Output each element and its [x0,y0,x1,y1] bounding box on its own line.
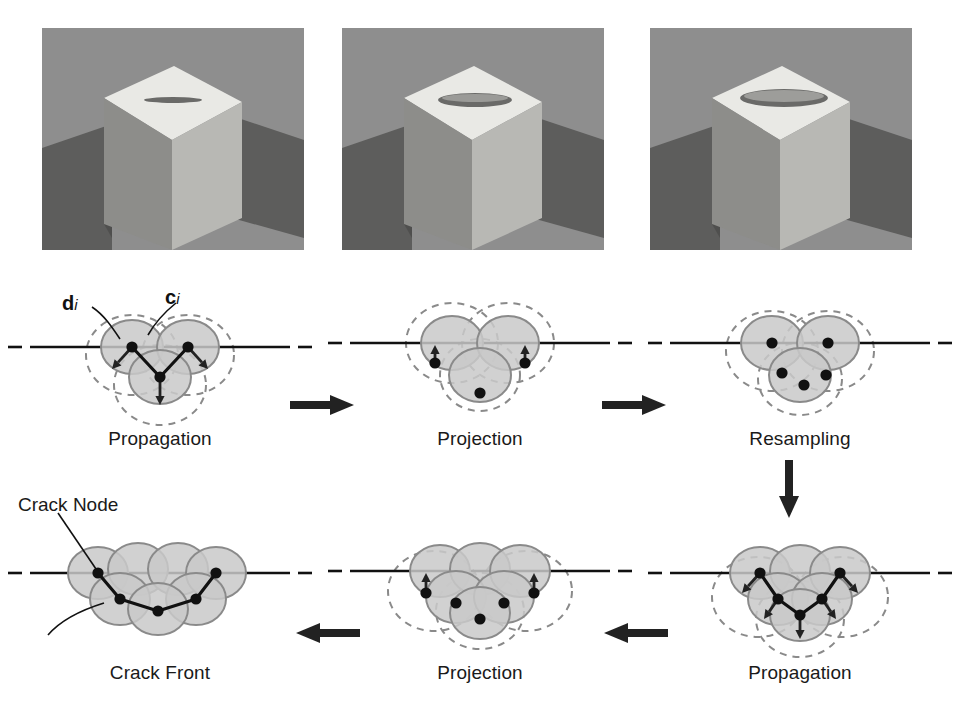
leader-crack-node-icon [58,513,96,569]
stage-panel-projection-1 [320,285,640,435]
crack-node-2 [450,597,461,608]
caption-stage-4: Propagation [640,662,960,684]
crack-node-0 [429,357,440,368]
caption-stage-5: Projection [320,662,640,684]
sample-disk-5 [450,587,510,639]
crack-node-4 [794,609,805,620]
caption-stage-6: Crack Front [0,662,320,684]
arrow-stage5-to-stage6 [292,620,362,646]
crack-node-0 [754,567,765,578]
crack-node-2 [772,593,783,604]
crack-node-1 [822,337,833,348]
stage-5-graphic [320,515,640,665]
crack-node-0 [766,337,777,348]
stage-4-graphic [640,515,960,665]
crack-propagation-figure: Propagation Projection Resampling Propag… [0,0,960,716]
crack-node-2 [776,367,787,378]
leader-d-icon [92,307,120,339]
crack-node-2 [474,387,485,398]
leader-crack-front-icon [48,603,104,635]
crack-node-1 [519,357,530,368]
leader-lines-stage-1 [0,285,320,435]
leader-lines-stage-6 [0,515,320,665]
arrow-stage3-to-stage4 [776,458,802,520]
stage-2-graphic [320,285,640,435]
leader-c-icon [148,303,176,335]
stage-panel-propagation-2 [640,515,960,665]
caption-stage-3: Resampling [640,428,960,450]
stage-3-graphic [640,285,960,435]
crack-node-4 [798,379,809,390]
render-cube-intermediate [342,28,604,250]
render-cube-initial [42,28,304,250]
label-crack-node: Crack Node [18,494,118,516]
stage-panel-projection-2 [320,515,640,665]
crack-node-3 [816,593,827,604]
stage-panel-resampling [640,285,960,435]
crack-node-3 [498,597,509,608]
caption-stage-2: Projection [320,428,640,450]
crack-node-0 [420,587,431,598]
render-row [0,0,960,255]
crack-node-3 [820,369,831,380]
arrow-stage4-to-stage5 [600,620,670,646]
render-cube-final [650,28,912,250]
arrow-stage1-to-stage2 [288,392,358,418]
crack-node-1 [834,567,845,578]
crack-node-4 [474,613,485,624]
crack-node-1 [528,587,539,598]
arrow-stage2-to-stage3 [600,392,670,418]
